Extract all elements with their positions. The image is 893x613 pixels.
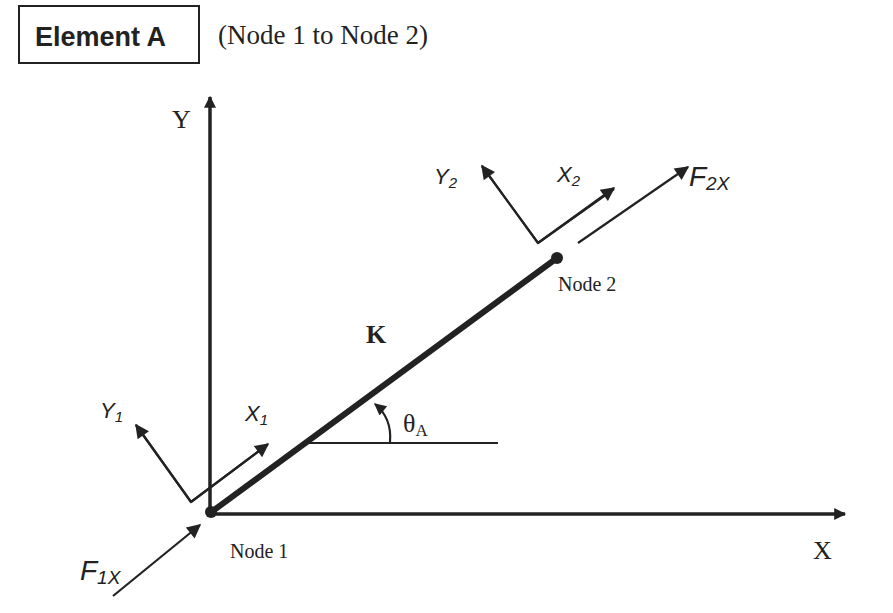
force-f2x-arrow	[578, 167, 688, 243]
y-axis-label: Y	[172, 105, 191, 134]
node-2-label: Node 2	[558, 273, 616, 295]
local-x2-label: X2	[556, 162, 581, 189]
title-box: Element A	[19, 6, 199, 63]
element-bar	[210, 258, 557, 513]
local-y2-arrow	[482, 166, 538, 243]
force-f1x-label: F1X	[80, 555, 122, 588]
angle-label: θA	[403, 409, 428, 440]
force-f1x-arrow	[113, 525, 200, 596]
local-y2-label: Y2	[434, 164, 458, 191]
element-label: Element A	[35, 22, 166, 52]
x-axis-label: X	[813, 536, 832, 565]
node-1-axes-corner	[136, 425, 267, 502]
angle-arc-arrow	[375, 404, 390, 442]
local-y1-label: Y1	[100, 398, 123, 425]
local-x1-label: X1	[244, 401, 268, 428]
stiffness-label: K	[366, 320, 387, 349]
local-x1-arrow	[191, 444, 268, 502]
local-y1-arrow	[136, 425, 191, 502]
node-2-local-axes: Y2 X2	[434, 162, 614, 243]
element-subtitle: (Node 1 to Node 2)	[218, 20, 428, 50]
truss-element-diagram: Element A (Node 1 to Node 2) Y X K θA Y1…	[0, 0, 893, 613]
node-1-point	[205, 506, 217, 518]
node-1-label: Node 1	[230, 540, 288, 562]
local-x2-arrow	[538, 188, 614, 243]
node-2-point	[551, 252, 563, 264]
force-f2x-label: F2X	[689, 161, 731, 194]
